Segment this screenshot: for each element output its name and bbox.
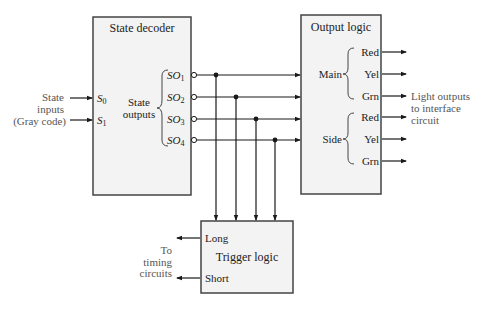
- state-decoder-title: State decoder: [93, 22, 191, 35]
- light-outputs-label-3: circuit: [411, 114, 439, 127]
- side-group-label: Side: [310, 133, 342, 146]
- side-grn-label: Grn: [350, 155, 379, 168]
- state-inputs-label-3: (Gray code): [0, 115, 66, 128]
- so3-pin-label: SO3: [167, 113, 184, 129]
- so1-bubble-icon: [191, 72, 196, 77]
- main-group-label: Main: [310, 68, 342, 81]
- so2-bubble-icon: [191, 94, 196, 99]
- s0-pin-label: S0: [97, 92, 107, 108]
- trigger-logic-title: Trigger logic: [201, 251, 293, 264]
- main-grn-label: Grn: [350, 90, 379, 103]
- state-outputs-label-2: outputs: [120, 108, 158, 121]
- so1-pin-label: SO1: [167, 69, 184, 85]
- side-yel-label: Yel: [350, 133, 379, 146]
- main-red-label: Red: [350, 46, 379, 59]
- main-yel-label: Yel: [350, 68, 379, 81]
- s1-pin-label: S1: [97, 114, 107, 130]
- so4-pin-label: SO4: [167, 134, 184, 150]
- short-output-label: Short: [205, 272, 229, 285]
- timing-label-3: circuits: [120, 267, 172, 280]
- long-output-label: Long: [205, 232, 228, 245]
- output-logic-title: Output logic: [301, 21, 381, 34]
- so4-bubble-icon: [191, 137, 196, 142]
- so2-pin-label: SO2: [167, 91, 184, 107]
- so3-bubble-icon: [191, 116, 196, 121]
- side-red-label: Red: [350, 111, 379, 124]
